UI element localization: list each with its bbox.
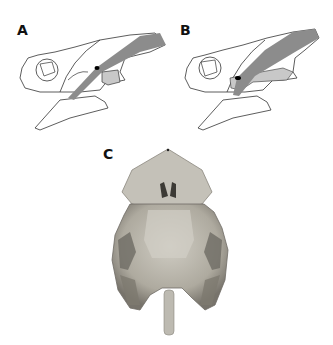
skull-ventral-photo-c bbox=[90, 140, 250, 345]
skull-lateral-drawing-a bbox=[0, 0, 170, 140]
skull-lateral-drawing-b bbox=[165, 0, 333, 140]
pivot-marker-a bbox=[95, 66, 100, 70]
pivot-marker-b bbox=[235, 76, 241, 80]
